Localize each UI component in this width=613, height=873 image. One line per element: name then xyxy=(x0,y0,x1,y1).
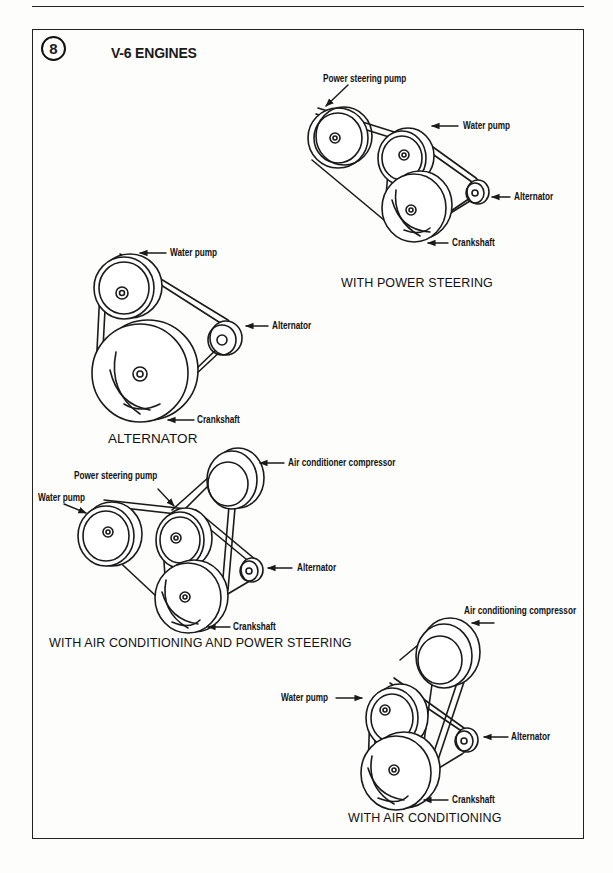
label-ac-compressor: Air conditioning compressor xyxy=(464,605,576,616)
caption-ac-and-power-steering: WITH AIR CONDITIONING AND POWER STEERING xyxy=(49,636,352,650)
caption-air-conditioning: WITH AIR CONDITIONING xyxy=(348,811,502,825)
label-alternator: Alternator xyxy=(514,191,553,202)
label-alternator: Alternator xyxy=(272,320,311,331)
crankshaft-pulley xyxy=(361,732,440,810)
label-alternator: Alternator xyxy=(511,731,550,742)
arrow-power-steering xyxy=(158,489,174,506)
arrow-power-steering xyxy=(326,85,348,106)
diagram-alternator xyxy=(92,253,268,422)
label-crankshaft: Crankshaft xyxy=(233,621,276,632)
label-ac-compressor: Air conditioner compressor xyxy=(288,457,396,468)
label-alternator: Alternator xyxy=(297,562,336,573)
label-crankshaft: Crankshaft xyxy=(452,794,495,805)
crankshaft-pulley xyxy=(155,560,228,633)
alternator-pulley xyxy=(455,728,478,752)
power-steering-pump-pulley xyxy=(156,508,212,568)
water-pump-pulley xyxy=(78,502,142,566)
caption-power-steering: WITH POWER STEERING xyxy=(341,276,493,290)
label-crankshaft: Crankshaft xyxy=(452,237,495,248)
arrow-water-pump xyxy=(64,504,86,513)
belt-diagrams xyxy=(0,0,613,873)
crankshaft-pulley xyxy=(92,320,198,422)
label-water-pump: Water pump xyxy=(38,492,85,503)
label-power-steering-pump: Power steering pump xyxy=(323,73,406,84)
diagram-air-conditioning xyxy=(336,618,508,810)
diagram-power-steering xyxy=(308,85,510,243)
label-crankshaft: Crankshaft xyxy=(197,414,240,425)
label-water-pump: Water pump xyxy=(463,120,510,131)
water-pump-pulley xyxy=(94,254,162,319)
ac-compressor-pulley xyxy=(416,618,480,688)
ac-compressor-pulley xyxy=(207,448,264,509)
caption-alternator: ALTERNATOR xyxy=(108,431,198,446)
alternator-pulley xyxy=(466,180,489,204)
label-water-pump: Water pump xyxy=(170,247,217,258)
alternator-pulley xyxy=(208,321,242,355)
label-water-pump: Water pump xyxy=(281,692,328,703)
label-power-steering-pump: Power steering pump xyxy=(74,470,157,481)
power-steering-pump-pulley xyxy=(308,107,372,168)
alternator-pulley xyxy=(240,558,263,582)
